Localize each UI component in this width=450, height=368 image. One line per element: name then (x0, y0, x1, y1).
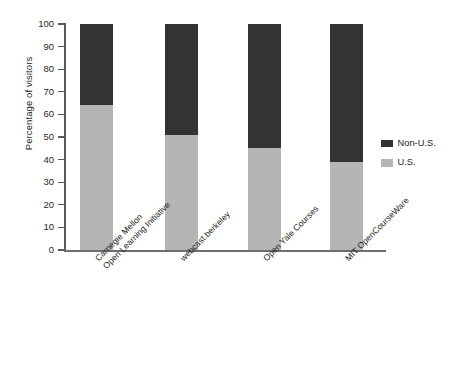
legend-swatch-icon (381, 159, 393, 167)
stacked-bar-chart: Percentage of visitors 10090807060504030… (0, 0, 450, 368)
legend-item-1: Non-U.S. (381, 139, 436, 148)
bar-segment-us (165, 135, 198, 250)
chart-legend: Non-U.S.U.S. (381, 139, 436, 178)
bar-segment-us (248, 148, 281, 250)
y-tick-label: 10 (12, 222, 54, 232)
bar-segment-non-us (248, 24, 281, 148)
legend-item-2: U.S. (381, 158, 436, 167)
y-tick-label: 100 (12, 19, 54, 29)
y-tick-label: 40 (12, 155, 54, 165)
y-tick-label: 20 (12, 200, 54, 210)
bar-segment-non-us (80, 24, 113, 105)
legend-label: U.S. (398, 158, 416, 167)
bar-segment-us (80, 105, 113, 250)
bar-3 (248, 24, 281, 250)
bar-4 (330, 24, 363, 250)
y-tick-label: 0 (12, 245, 54, 255)
bar-segment-non-us (330, 24, 363, 162)
y-tick-label: 30 (12, 177, 54, 187)
y-axis-title: Percentage of visitors (23, 14, 34, 194)
y-tick-label: 90 (12, 42, 54, 52)
y-tick-label: 70 (12, 87, 54, 97)
bar-segment-non-us (165, 24, 198, 135)
legend-swatch-icon (381, 140, 393, 148)
y-tick-label: 80 (12, 64, 54, 74)
y-tick-label: 50 (12, 132, 54, 142)
bar-2 (165, 24, 198, 250)
bar-1 (80, 24, 113, 250)
y-tick-label: 60 (12, 109, 54, 119)
bar-segment-us (330, 162, 363, 250)
legend-label: Non-U.S. (398, 139, 436, 148)
